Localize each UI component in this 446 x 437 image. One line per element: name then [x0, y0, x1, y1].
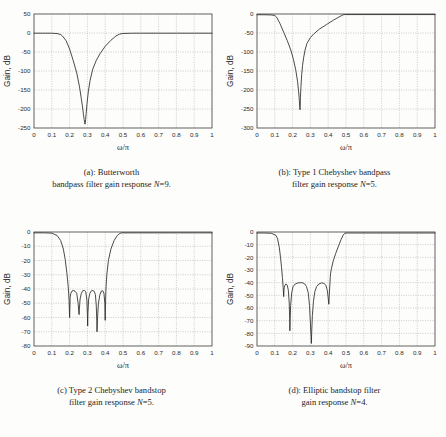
- panel-c: 00.10.20.30.40.50.60.70.80.910-10-20-30-…: [0, 218, 223, 436]
- chart-b-ticks: 00.10.20.30.40.50.60.70.80.910-50-100-15…: [241, 10, 437, 138]
- ytick-label: -60: [22, 314, 32, 321]
- chart-b-grid: [257, 14, 435, 128]
- xtick-label: 0.4: [101, 131, 110, 138]
- plot-d: 00.10.20.30.40.50.60.70.80.910-10-20-30-…: [223, 218, 446, 386]
- ytick-label: -300: [241, 124, 254, 131]
- caption-a-order-value: =9.: [160, 179, 171, 189]
- xtick-label: 1: [210, 131, 214, 138]
- xtick-label: 0.7: [377, 131, 386, 138]
- xtick-label: 0.8: [172, 349, 181, 356]
- caption-c-line2: filter gain response N=5.: [0, 396, 223, 408]
- xtick-label: 0.7: [154, 131, 163, 138]
- xtick-label: 0.3: [306, 349, 315, 356]
- plot-a: 00.10.20.30.40.50.60.70.80.91500-50-100-…: [0, 0, 223, 168]
- ytick-label: -10: [245, 241, 255, 248]
- panel-d: 00.10.20.30.40.50.60.70.80.910-10-20-30-…: [223, 218, 446, 436]
- ytick-label: -150: [241, 67, 254, 74]
- ytick-label: -70: [22, 328, 32, 335]
- xtick-label: 0.3: [83, 349, 92, 356]
- xtick-label: 0.6: [136, 131, 145, 138]
- ytick-label: -60: [245, 304, 255, 311]
- caption-a-line2: bandpass filter gain response N=9.: [0, 178, 223, 190]
- caption-b-line2: filter gain response N=5.: [223, 178, 446, 190]
- xtick-label: 0.7: [154, 349, 163, 356]
- xtick-label: 0: [255, 349, 259, 356]
- caption-d-order-value: =4.: [356, 397, 367, 407]
- xtick-label: 0: [32, 131, 36, 138]
- ytick-label: 0: [27, 29, 31, 36]
- xtick-label: 0.2: [288, 349, 297, 356]
- xtick-label: 0.2: [65, 131, 74, 138]
- xtick-label: 0.8: [172, 131, 181, 138]
- figure-sheet: 00.10.20.30.40.50.60.70.80.91500-50-100-…: [0, 0, 446, 437]
- ytick-label: -50: [245, 292, 255, 299]
- ytick-label: -80: [245, 330, 255, 337]
- chart-a-ylabel: Gain, dB: [3, 55, 12, 87]
- chart-c-xlabel: ω/π: [117, 361, 130, 370]
- ytick-label: -50: [22, 299, 32, 306]
- xtick-label: 0.1: [270, 131, 279, 138]
- chart-a-ticks: 00.10.20.30.40.50.60.70.80.91500-50-100-…: [18, 10, 214, 138]
- chart-c-ticks: 00.10.20.30.40.50.60.70.80.910-10-20-30-…: [22, 228, 215, 356]
- caption-b-line2-pre: filter gain response: [292, 179, 360, 189]
- caption-d-line1: (d): Elliptic bandstop filter: [223, 384, 446, 396]
- ytick-label: -200: [18, 105, 31, 112]
- ytick-label: -50: [245, 29, 255, 36]
- xtick-label: 1: [210, 349, 214, 356]
- ytick-label: -200: [241, 86, 254, 93]
- xtick-label: 0.9: [190, 349, 199, 356]
- plot-b: 00.10.20.30.40.50.60.70.80.910-50-100-15…: [223, 0, 446, 168]
- xtick-label: 0.2: [65, 349, 74, 356]
- ytick-label: -30: [22, 271, 32, 278]
- ytick-label: -40: [245, 279, 255, 286]
- xtick-label: 0.5: [342, 349, 351, 356]
- caption-b: (b): Type 1 Chebyshev bandpass filter ga…: [223, 166, 446, 191]
- xtick-label: 0.9: [413, 131, 422, 138]
- chart-c-grid: [34, 232, 212, 346]
- ytick-label: -20: [245, 254, 255, 261]
- panel-b: 00.10.20.30.40.50.60.70.80.910-50-100-15…: [223, 0, 446, 218]
- chart-b-ylabel: Gain, dB: [226, 55, 235, 87]
- caption-a: (a): Butterworth bandpass filter gain re…: [0, 166, 223, 191]
- ytick-label: -100: [18, 67, 31, 74]
- chart-d-ylabel: Gain, dB: [226, 273, 235, 305]
- ytick-label: -80: [22, 342, 32, 349]
- xtick-label: 0.4: [324, 131, 333, 138]
- xtick-label: 0.2: [288, 131, 297, 138]
- caption-b-order-value: =5.: [366, 179, 377, 189]
- caption-c-line1: (c) Type 2 Chebyshev bandstop: [0, 384, 223, 396]
- ytick-label: 0: [250, 10, 254, 17]
- xtick-label: 0.1: [47, 131, 56, 138]
- chart-b-svg: 00.10.20.30.40.50.60.70.80.910-50-100-15…: [223, 0, 446, 168]
- chart-a-xlabel: ω/π: [117, 143, 130, 152]
- xtick-label: 0.4: [324, 349, 333, 356]
- chart-c-ylabel: Gain, dB: [3, 273, 12, 305]
- ytick-label: -100: [241, 48, 254, 55]
- ytick-label: -20: [22, 257, 32, 264]
- plot-c: 00.10.20.30.40.50.60.70.80.910-10-20-30-…: [0, 218, 223, 386]
- xtick-label: 1: [433, 349, 437, 356]
- caption-b-line1: (b): Type 1 Chebyshev bandpass: [223, 166, 446, 178]
- chart-d-svg: 00.10.20.30.40.50.60.70.80.910-10-20-30-…: [223, 218, 446, 386]
- ytick-label: 50: [24, 10, 31, 17]
- panel-a: 00.10.20.30.40.50.60.70.80.91500-50-100-…: [0, 0, 223, 218]
- xtick-label: 0.9: [413, 349, 422, 356]
- caption-c-line2-pre: filter gain response: [69, 397, 137, 407]
- ytick-label: -10: [22, 242, 32, 249]
- chart-c-svg: 00.10.20.30.40.50.60.70.80.910-10-20-30-…: [0, 218, 223, 386]
- caption-a-line1: (a): Butterworth: [0, 166, 223, 178]
- caption-a-line2-pre: bandpass filter gain response: [52, 179, 154, 189]
- caption-d-line2: gain response N=4.: [223, 396, 446, 408]
- ytick-label: -250: [18, 124, 31, 131]
- chart-b-xlabel: ω/π: [340, 143, 353, 152]
- caption-d-line2-pre: gain response: [301, 397, 350, 407]
- xtick-label: 0.5: [119, 131, 128, 138]
- xtick-label: 0.5: [342, 131, 351, 138]
- xtick-label: 0.1: [270, 349, 279, 356]
- xtick-label: 0: [255, 131, 259, 138]
- chart-d-ticks: 00.10.20.30.40.50.60.70.80.910-10-20-30-…: [245, 228, 438, 356]
- xtick-label: 0.3: [306, 131, 315, 138]
- xtick-label: 0.3: [83, 131, 92, 138]
- xtick-label: 0.8: [395, 349, 404, 356]
- ytick-label: 0: [250, 228, 254, 235]
